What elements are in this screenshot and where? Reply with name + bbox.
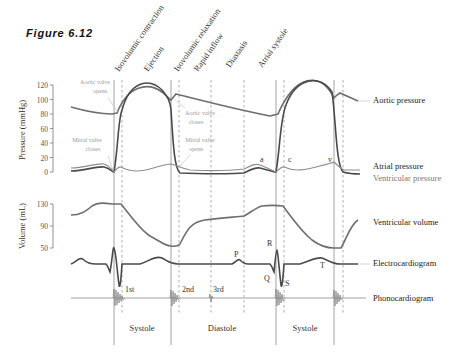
event-lines-dashed	[122, 80, 343, 313]
pressure-tick-80: 80	[41, 110, 49, 119]
label-ventricular-pressure: Ventricular pressure	[373, 173, 441, 183]
figure-title: Figure 6.12	[26, 27, 93, 39]
annot-mitral-opens-1: Mitral valve	[185, 137, 215, 143]
phase-label-ejection: Ejection	[141, 44, 166, 74]
event-lines-solid	[114, 80, 334, 345]
wave-label-p: P	[234, 250, 239, 259]
period-systole-1: Systole	[129, 323, 154, 333]
label-electrocardiogram: Electrocardiogram	[373, 258, 437, 268]
volume-tick-90: 90	[41, 222, 49, 231]
heart-sound-3rd: 3rd	[213, 285, 224, 294]
pressure-axis: 120 100 80 60 40 20 0 Pressure (mmHg)	[17, 81, 53, 177]
label-phonocardiogram: Phonocardiogram	[373, 293, 434, 303]
pressure-axis-title: Pressure (mmHg)	[17, 100, 27, 160]
pressure-tick-40: 40	[41, 139, 49, 148]
volume-tick-50: 50	[41, 244, 49, 253]
wiggers-diagram: Figure 6.12 Isovolumic contraction Eject…	[0, 0, 455, 355]
annot-mitral-closes-2: closes	[86, 146, 101, 152]
wave-label-s: S	[285, 279, 289, 288]
label-atrial-pressure: Atrial pressure	[373, 161, 424, 171]
wave-label-a: a	[260, 155, 264, 164]
wave-label-q: Q	[264, 274, 270, 283]
wave-label-r: R	[267, 239, 273, 248]
label-ventricular-volume: Ventricular volume	[373, 217, 439, 227]
annot-aortic-closes-2: closes	[189, 119, 204, 125]
phase-label-atrial-systole: Atrial systole	[255, 26, 289, 69]
volume-tick-130: 130	[37, 200, 49, 209]
heart-sound-2nd: 2nd	[182, 285, 194, 294]
period-diastole: Diastole	[208, 323, 237, 333]
annot-aortic-closes-1: Aortic valve	[185, 110, 215, 116]
phase-label-diastasis: Diastasis	[223, 38, 249, 69]
pressure-tick-100: 100	[37, 96, 49, 105]
volume-axis-title: Volume (mL)	[17, 203, 27, 249]
period-systole-2: Systole	[292, 323, 317, 333]
wave-label-v: v	[328, 155, 332, 164]
annot-aortic-opens-1: Aortic valve	[80, 79, 110, 85]
pressure-tick-0: 0	[44, 168, 48, 177]
label-aortic-pressure: Aortic pressure	[373, 95, 425, 105]
annot-aortic-opens-2: opens	[93, 88, 108, 94]
annot-mitral-closes-1: Mitral valve	[72, 137, 102, 143]
annot-mitral-opens-2: opens	[189, 146, 204, 152]
valve-annotations: Aortic valve opens Aortic valve closes M…	[72, 79, 215, 170]
pressure-tick-20: 20	[41, 154, 49, 163]
wave-label-t: T	[320, 261, 325, 270]
heart-sound-1st: 1st	[125, 285, 135, 294]
phase-label-isovolumic-contraction: Isovolumic contraction	[112, 2, 166, 73]
pressure-tick-120: 120	[37, 81, 49, 90]
wave-label-c: c	[288, 155, 292, 164]
pressure-tick-60: 60	[41, 125, 49, 134]
volume-axis: 130 90 50 Volume (mL)	[17, 200, 53, 253]
